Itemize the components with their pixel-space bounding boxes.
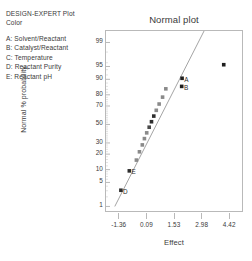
point-label-e: E [132, 168, 136, 175]
data-point-13[interactable] [164, 87, 168, 91]
x-tick-2: 1.53 [159, 221, 189, 228]
data-point-8[interactable] [150, 120, 154, 124]
y-tick-99: 99 [89, 37, 103, 44]
y-tick-5: 5 [89, 177, 103, 184]
x-tick-4: 4.42 [214, 221, 244, 228]
plot-canvas [106, 31, 243, 212]
data-point-16[interactable] [222, 63, 226, 67]
y-tick-95: 95 [89, 61, 103, 68]
chart-title: Normal plot [105, 14, 243, 25]
x-tick-mark-4 [229, 213, 231, 219]
legend-subtitle: Color [6, 18, 102, 27]
data-point-11[interactable] [157, 102, 161, 106]
data-point-6[interactable] [145, 131, 149, 135]
plot-area [105, 30, 243, 212]
data-point-9[interactable] [152, 114, 156, 118]
point-label-d: D [123, 188, 128, 195]
y-tick-70: 70 [89, 101, 103, 108]
y-tick-1: 1 [89, 201, 103, 208]
y-tick-80: 80 [89, 90, 103, 97]
y-tick-50: 50 [89, 119, 103, 126]
x-tick-mark-1 [146, 213, 148, 219]
x-tick-mark-2 [174, 213, 176, 219]
point-label-a: A [184, 76, 188, 83]
x-tick-3: 2.98 [187, 221, 217, 228]
y-tick-20: 20 [89, 149, 103, 156]
data-point-4[interactable] [141, 143, 145, 147]
point-label-b: B [184, 84, 188, 91]
y-tick-30: 30 [89, 138, 103, 145]
legend-title: DESIGN-EXPERT Plot [6, 9, 102, 18]
data-point-3[interactable] [138, 150, 142, 154]
x-tick-mark-3 [201, 213, 203, 219]
data-point-12[interactable] [161, 95, 165, 99]
reference-line [115, 31, 204, 206]
data-point-10[interactable] [154, 109, 158, 113]
y-axis-label: Normal % probability [20, 30, 27, 170]
y-axis-tick-labels: 15102030507080909599 [88, 30, 103, 212]
normal-plot-screen: DESIGN-EXPERT Plot Color A: Solvent/Reac… [0, 0, 252, 261]
data-point-2[interactable] [135, 158, 139, 162]
x-axis-label: Effect [105, 238, 243, 247]
x-tick-1: 0.09 [131, 221, 161, 228]
data-point-5[interactable] [143, 137, 147, 141]
y-tick-10: 10 [89, 165, 103, 172]
data-point-7[interactable] [147, 125, 151, 129]
y-tick-90: 90 [89, 74, 103, 81]
x-tick-mark-0 [118, 213, 120, 219]
x-tick-0: -1.36 [104, 221, 134, 228]
